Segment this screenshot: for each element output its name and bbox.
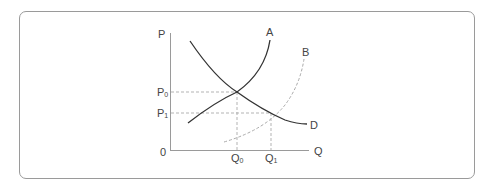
- curve-b-label: B: [302, 46, 309, 58]
- curve-b: [224, 59, 304, 142]
- curve-d-label: D: [310, 119, 318, 131]
- curve-a-label: A: [266, 26, 274, 38]
- p1-label: P1: [157, 107, 168, 119]
- x-axis-label: Q: [314, 145, 323, 157]
- p0-label: P0: [157, 86, 168, 98]
- curve-a: [188, 40, 270, 123]
- origin-label: 0: [160, 146, 166, 158]
- q0-label: Q0: [231, 152, 244, 164]
- supply-demand-diagram: P Q 0 A B D P0 P1 Q0 Q1: [0, 0, 494, 187]
- q1-label: Q1: [265, 152, 278, 164]
- y-axis-label: P: [158, 28, 165, 40]
